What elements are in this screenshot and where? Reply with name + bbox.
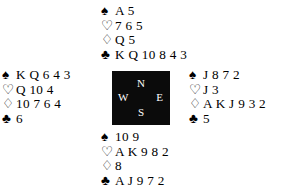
east-club-cards: 5	[202, 112, 210, 127]
east-heart-row: ♡ J 3	[189, 83, 266, 98]
diamond-icon: ♢	[101, 33, 114, 48]
south-diamond-row: ♢ 8	[101, 159, 169, 174]
club-icon: ♣	[2, 112, 15, 127]
north-club-row: ♣ K Q 10 8 4 3	[101, 48, 187, 63]
spade-icon: ♠	[101, 4, 114, 19]
east-spade-cards: J 8 7 2	[202, 68, 240, 83]
south-spade-cards: 10 9	[114, 130, 139, 145]
west-heart-row: ♡ Q 10 4	[2, 83, 71, 98]
hand-north: ♠ A 5 ♡ 7 6 5 ♢ Q 5 ♣ K Q 10 8 4 3	[101, 4, 187, 62]
south-heart-row: ♡ A K 9 8 2	[101, 145, 169, 160]
heart-icon: ♡	[101, 19, 114, 34]
club-icon: ♣	[101, 48, 114, 63]
east-spade-row: ♠ J 8 7 2	[189, 68, 266, 83]
north-spade-row: ♠ A 5	[101, 4, 187, 19]
club-icon: ♣	[189, 112, 202, 127]
heart-icon: ♡	[2, 83, 15, 98]
north-diamond-row: ♢ Q 5	[101, 33, 187, 48]
west-diamond-row: ♢ 10 7 6 4	[2, 97, 71, 112]
east-diamond-row: ♢ A K J 9 3 2	[189, 97, 266, 112]
diamond-icon: ♢	[101, 159, 114, 174]
bridge-deal-diagram: ♠ A 5 ♡ 7 6 5 ♢ Q 5 ♣ K Q 10 8 4 3 ♠ K Q…	[0, 0, 282, 193]
east-club-row: ♣ 5	[189, 112, 266, 127]
east-heart-cards: J 3	[202, 83, 219, 98]
north-heart-row: ♡ 7 6 5	[101, 19, 187, 34]
south-spade-row: ♠ 10 9	[101, 130, 169, 145]
west-spade-row: ♠ K Q 6 4 3	[2, 68, 71, 83]
diamond-icon: ♢	[2, 97, 15, 112]
north-spade-cards: A 5	[114, 4, 135, 19]
diamond-icon: ♢	[189, 97, 202, 112]
north-diamond-cards: Q 5	[114, 33, 135, 48]
west-diamond-cards: 10 7 6 4	[15, 97, 61, 112]
compass-label-west: W	[118, 92, 128, 103]
compass-box: N W E S	[112, 71, 170, 125]
spade-icon: ♠	[189, 68, 202, 83]
south-heart-cards: A K 9 8 2	[114, 145, 169, 160]
west-club-cards: 6	[15, 112, 23, 127]
hand-east: ♠ J 8 7 2 ♡ J 3 ♢ A K J 9 3 2 ♣ 5	[189, 68, 266, 126]
west-heart-cards: Q 10 4	[15, 83, 54, 98]
south-diamond-cards: 8	[114, 159, 122, 174]
north-heart-cards: 7 6 5	[114, 19, 143, 34]
heart-icon: ♡	[101, 145, 114, 160]
compass-label-south: S	[112, 107, 170, 118]
north-club-cards: K Q 10 8 4 3	[114, 48, 187, 63]
hand-west: ♠ K Q 6 4 3 ♡ Q 10 4 ♢ 10 7 6 4 ♣ 6	[2, 68, 71, 126]
west-club-row: ♣ 6	[2, 112, 71, 127]
south-club-cards: A J 9 7 2	[114, 174, 165, 189]
south-club-row: ♣ A J 9 7 2	[101, 174, 169, 189]
hand-south: ♠ 10 9 ♡ A K 9 8 2 ♢ 8 ♣ A J 9 7 2	[101, 130, 169, 188]
west-spade-cards: K Q 6 4 3	[15, 68, 71, 83]
compass-label-east: E	[156, 92, 163, 103]
compass-label-north: N	[112, 78, 170, 89]
east-diamond-cards: A K J 9 3 2	[202, 97, 266, 112]
spade-icon: ♠	[101, 130, 114, 145]
club-icon: ♣	[101, 174, 114, 189]
spade-icon: ♠	[2, 68, 15, 83]
heart-icon: ♡	[189, 83, 202, 98]
